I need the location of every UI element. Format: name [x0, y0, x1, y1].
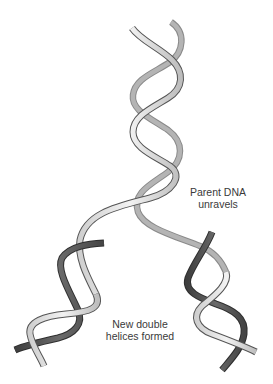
new-helices-label-line1: New double	[98, 318, 182, 330]
new-helices-label: New double helices formed	[98, 318, 182, 342]
new-helices-label-line2: helices formed	[98, 330, 182, 342]
left-daughter-helix	[15, 243, 104, 366]
parent-dna-label: Parent DNA unravels	[186, 186, 250, 210]
dna-replication-diagram: Parent DNA unravels New double helices f…	[0, 0, 273, 384]
right-daughter-helix	[187, 232, 256, 370]
parent-dna-label-line2: unravels	[186, 198, 250, 210]
parent-dna-label-line1: Parent DNA	[186, 186, 250, 198]
